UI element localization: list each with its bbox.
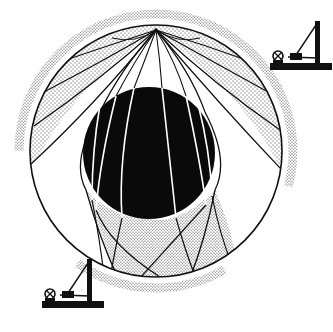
seismograph-wire [296, 22, 318, 55]
seismograph-mass [62, 291, 74, 298]
seismograph-base [270, 63, 332, 70]
seismograph-mast [87, 259, 92, 304]
seismograph-base [42, 301, 104, 308]
seismograph-mast [315, 21, 320, 66]
earthquake-source [154, 28, 158, 32]
outer-core [83, 87, 215, 219]
seismograph-mass [290, 53, 302, 60]
seismic-diagram: Seismic wave paths through Earth and cor… [0, 0, 333, 332]
diagram-canvas [0, 0, 333, 332]
seismograph-bottom-left [42, 259, 104, 308]
seismograph-top-right [270, 21, 332, 70]
